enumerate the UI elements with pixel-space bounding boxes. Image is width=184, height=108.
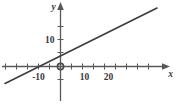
graph-figure: -10 10 20 10 x y [0,0,184,108]
x-axis-label: x [167,69,173,79]
x-tick-label-ten: 10 [80,72,90,82]
y-axis-label: y [50,2,56,12]
x-tick-label-twenty: 20 [104,72,114,82]
y-tick-label-ten: 10 [45,35,55,45]
x-tick-label-neg-ten: -10 [32,72,45,82]
coordinate-plane-svg: -10 10 20 10 x y [0,0,184,108]
y-axis-arrow-icon [57,2,64,10]
